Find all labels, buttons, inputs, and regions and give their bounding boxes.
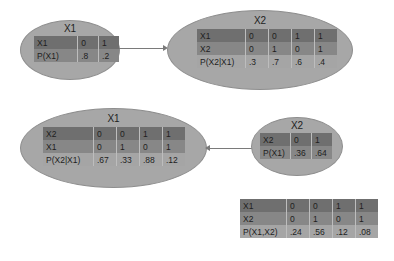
cell: 1 bbox=[269, 42, 292, 55]
cell: 0 bbox=[291, 133, 312, 146]
cell: 0 bbox=[269, 29, 292, 42]
cell: 0 bbox=[94, 140, 117, 153]
cpt-table: X1 0 0 1 1 X2 0 1 0 1 P(X2|X1) .3 .7 .6 … bbox=[197, 29, 337, 68]
cell: .2 bbox=[99, 49, 119, 62]
cell: .12 bbox=[333, 225, 356, 238]
cpt-table: X2 0 0 1 1 X1 0 1 0 1 P(X2|X1) .67 .33 .… bbox=[43, 127, 185, 166]
row-label: X1 bbox=[34, 36, 78, 49]
row-label: X1 bbox=[43, 140, 94, 153]
cpt-table: X1 0 1 P(X1) .8 .2 bbox=[34, 36, 119, 62]
table-row: X2 0 0 1 1 bbox=[43, 127, 185, 140]
cell: .64 bbox=[312, 146, 333, 159]
cell: 1 bbox=[315, 29, 338, 42]
cell: .67 bbox=[94, 153, 117, 166]
joint-probability-table: X1 0 0 1 1 X2 0 1 0 1 P(X1,X2) .24 .56 .… bbox=[240, 199, 378, 238]
cell: 0 bbox=[78, 36, 99, 49]
cell: 1 bbox=[117, 140, 140, 153]
row-label: X2 bbox=[240, 212, 287, 225]
cell: .3 bbox=[246, 55, 269, 68]
cell: 0 bbox=[333, 212, 356, 225]
cell: .33 bbox=[117, 153, 140, 166]
cell: 1 bbox=[315, 42, 338, 55]
cell: 0 bbox=[246, 42, 269, 55]
cpt-table: X2 0 1 P(X1) .36 .64 bbox=[260, 133, 332, 159]
cell: 0 bbox=[140, 140, 163, 153]
table-row: P(X1) .8 .2 bbox=[34, 49, 119, 62]
cell: 0 bbox=[310, 199, 333, 212]
row-label: P(X1) bbox=[260, 146, 291, 159]
cell: .8 bbox=[78, 49, 99, 62]
node-x2-bottom: X2 X2 0 1 P(X1) .36 .64 bbox=[251, 117, 343, 176]
cell: .6 bbox=[292, 55, 315, 68]
row-label: P(X1,X2) bbox=[240, 225, 287, 238]
table-row: X1 0 0 1 1 bbox=[240, 199, 378, 212]
cell: 0 bbox=[287, 199, 310, 212]
cell: 1 bbox=[312, 133, 333, 146]
edge-x1-to-x2 bbox=[119, 48, 164, 49]
cell: 1 bbox=[333, 199, 356, 212]
cell: .12 bbox=[163, 153, 186, 166]
row-label: P(X2|X1) bbox=[197, 55, 246, 68]
edge-x2-to-x1 bbox=[209, 148, 252, 149]
table-row: X1 0 1 0 1 bbox=[43, 140, 185, 153]
table-row: X2 0 1 bbox=[260, 133, 332, 146]
cell: .08 bbox=[356, 225, 379, 238]
cell: 0 bbox=[246, 29, 269, 42]
row-label: X2 bbox=[260, 133, 291, 146]
cell: .7 bbox=[269, 55, 292, 68]
cell: 1 bbox=[310, 212, 333, 225]
node-title: X2 bbox=[168, 15, 352, 26]
cell: 1 bbox=[163, 127, 186, 140]
cell: .88 bbox=[140, 153, 163, 166]
node-title: X1 bbox=[21, 113, 206, 124]
cell: .4 bbox=[315, 55, 338, 68]
table-row: P(X2|X1) .3 .7 .6 .4 bbox=[197, 55, 337, 68]
table-row: P(X1,X2) .24 .56 .12 .08 bbox=[240, 225, 378, 238]
cell: 0 bbox=[94, 127, 117, 140]
node-x2-top: X2 X1 0 0 1 1 X2 0 1 0 1 P(X2|X1) .3 .7 … bbox=[167, 10, 353, 90]
cell: 1 bbox=[99, 36, 119, 49]
cell: .36 bbox=[291, 146, 312, 159]
cell: 1 bbox=[292, 29, 315, 42]
cell: 1 bbox=[356, 199, 379, 212]
row-label: X1 bbox=[240, 199, 287, 212]
table-row: X2 0 1 0 1 bbox=[240, 212, 378, 225]
node-title: X2 bbox=[252, 120, 342, 131]
row-label: P(X2|X1) bbox=[43, 153, 94, 166]
table-row: X2 0 1 0 1 bbox=[197, 42, 337, 55]
node-x1-bottom: X1 X2 0 0 1 1 X1 0 1 0 1 P(X2|X1) .67 .3… bbox=[20, 108, 207, 188]
cell: 1 bbox=[163, 140, 186, 153]
table-row: X1 0 1 bbox=[34, 36, 119, 49]
table-row: X1 0 0 1 1 bbox=[197, 29, 337, 42]
row-label: X2 bbox=[197, 42, 246, 55]
node-x1-top: X1 X1 0 1 P(X1) .8 .2 bbox=[20, 20, 120, 80]
table-row: P(X2|X1) .67 .33 .88 .12 bbox=[43, 153, 185, 166]
row-label: X2 bbox=[43, 127, 94, 140]
cell: 1 bbox=[356, 212, 379, 225]
node-title: X1 bbox=[21, 23, 119, 34]
table-row: P(X1) .36 .64 bbox=[260, 146, 332, 159]
cell: .56 bbox=[310, 225, 333, 238]
row-label: X1 bbox=[197, 29, 246, 42]
cell: 0 bbox=[287, 212, 310, 225]
cell: .24 bbox=[287, 225, 310, 238]
cell: 0 bbox=[292, 42, 315, 55]
row-label: P(X1) bbox=[34, 49, 78, 62]
cell: 1 bbox=[140, 127, 163, 140]
cell: 0 bbox=[117, 127, 140, 140]
